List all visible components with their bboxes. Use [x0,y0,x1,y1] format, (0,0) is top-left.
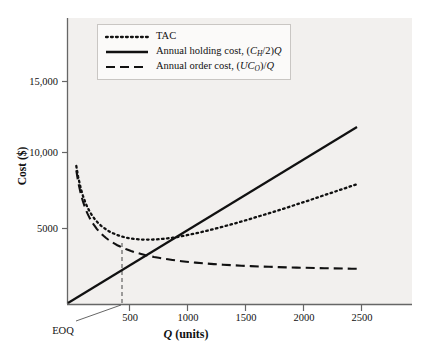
legend-order-sub: O [255,64,260,73]
legend-order-prefix: Annual order cost, ( [156,60,240,71]
x-tick-label-2500: 2500 [352,312,373,323]
legend-entry-order-cost: Annual order cost, (UCO)/Q [105,59,282,74]
x-axis-title: Q (units) [163,327,208,342]
y-tick-label-15000: 15,000 [6,76,58,87]
y-tick-label-5000: 5000 [6,223,58,234]
x-tick-label-1000: 1000 [178,312,199,323]
legend-holding-var: C [250,45,257,56]
eoq-annotation-label: EOQ [52,325,74,336]
series-tac [76,166,359,240]
eoq-leader-line [76,305,121,321]
eoq-cost-chart-figure: 15,000 10,000 5000 500 1000 1500 2000 25… [0,0,432,349]
legend-order-u: U [240,60,248,71]
legend-label-tac: TAC [156,31,176,42]
legend-holding-sub: H [257,49,262,58]
y-axis-title: Cost ($) [16,126,28,206]
legend-entry-holding-cost: Annual holding cost, (CH/2)Q [105,44,282,59]
series-annual-holding-cost [68,127,357,303]
y-tick-label-10000: 10,000 [6,147,58,158]
legend-holding-mid: /2) [262,45,274,56]
legend-holding-q: Q [274,45,282,56]
x-tick-label-1500: 1500 [236,312,257,323]
legend-holding-prefix: Annual holding cost, ( [156,45,250,56]
legend-order-c: C [248,60,255,71]
x-tick-label-2000: 2000 [294,312,315,323]
chart-legend: TAC Annual holding cost, (CH/2)Q Annual … [97,24,291,80]
legend-label-order-cost: Annual order cost, (UCO)/Q [156,61,274,72]
legend-swatch-dashed-icon [105,61,149,73]
legend-swatch-solid-icon [105,46,149,58]
legend-label-holding-cost: Annual holding cost, (CH/2)Q [156,46,282,57]
x-tick-label-500: 500 [122,312,138,323]
x-axis-title-symbol: Q [163,327,172,341]
legend-order-q: Q [266,60,274,71]
legend-swatch-dotted-icon [105,31,149,43]
legend-entry-tac: TAC [105,29,282,44]
x-axis-title-units: (units) [172,327,208,341]
series-annual-order-cost [76,170,359,268]
